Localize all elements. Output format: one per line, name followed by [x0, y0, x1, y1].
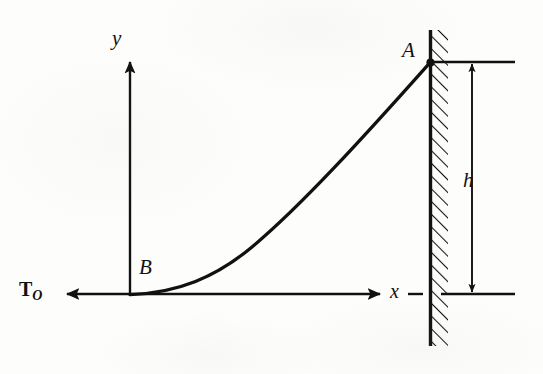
- tension-symbol: T: [19, 278, 32, 300]
- tension-force-label: TO: [19, 279, 42, 303]
- x-axis-label: x: [390, 281, 399, 301]
- wall-hatching: [431, 30, 448, 346]
- cable-diagram-svg: [0, 0, 543, 374]
- height-dimension-label: h: [463, 170, 474, 191]
- point-a-label: A: [402, 40, 415, 61]
- point-b-label: B: [139, 257, 152, 278]
- tension-subscript: O: [32, 288, 42, 303]
- axes-group: [67, 62, 423, 295]
- figure-canvas: y x A B h TO: [0, 0, 543, 374]
- y-axis-label: y: [112, 28, 121, 49]
- cable-curve: [130, 63, 430, 295]
- wall-group: [431, 30, 449, 346]
